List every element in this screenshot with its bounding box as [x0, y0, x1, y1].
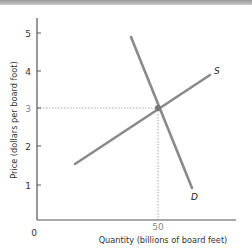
- y-tick-label-5: 5: [25, 29, 31, 39]
- supply-demand-chart: 5 4 3 2 1 0 50 Price (dollars per board …: [0, 0, 252, 249]
- x-axis-title: Quantity (billions of board feet): [99, 235, 228, 245]
- origin-label: 0: [31, 228, 37, 238]
- demand-curve: [131, 37, 192, 188]
- x-tick-label-50: 50: [152, 222, 164, 232]
- supply-label: S: [214, 66, 220, 76]
- supply-curve: [75, 75, 210, 164]
- y-axis-title: Price (dollars per board foot): [9, 61, 19, 179]
- y-tick-label-1: 1: [25, 181, 31, 191]
- y-tick-label-3: 3: [25, 104, 31, 114]
- equilibrium-point: [155, 105, 161, 111]
- y-tick-label-4: 4: [25, 67, 31, 77]
- demand-label: D: [191, 192, 198, 202]
- y-tick-label-2: 2: [25, 142, 31, 152]
